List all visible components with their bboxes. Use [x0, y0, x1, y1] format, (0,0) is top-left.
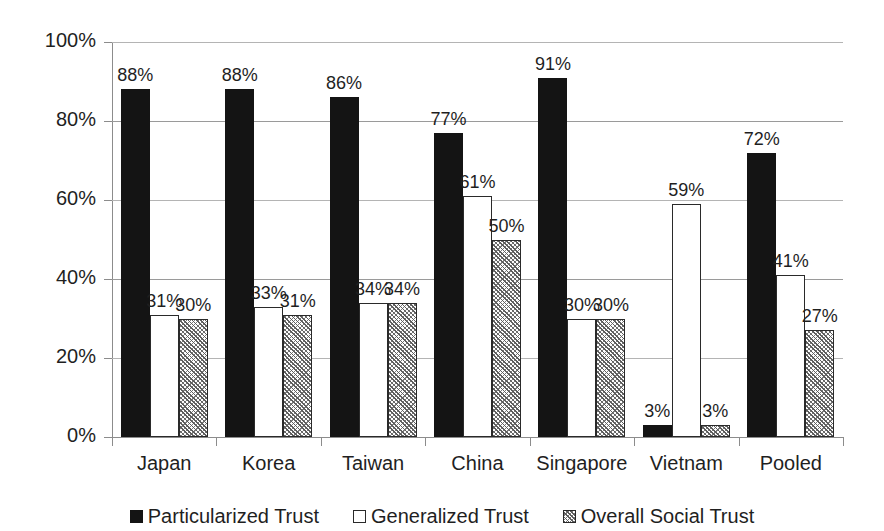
bar-taiwan-series-2: [388, 303, 417, 437]
bar-value-label: 31%: [272, 291, 324, 312]
bar-value-label: 27%: [794, 306, 846, 327]
x-axis-category-vietnam: Vietnam: [634, 452, 738, 475]
y-axis-label: 80%: [0, 108, 96, 131]
bar-korea-series-0: [225, 89, 254, 437]
y-axis-tick: [104, 121, 112, 122]
bar-singapore-series-2: [596, 319, 625, 438]
bar-singapore-series-1: [567, 319, 596, 438]
legend-item-0: Particularized Trust: [130, 505, 319, 528]
bar-value-label: 72%: [736, 129, 788, 150]
y-axis-tick: [104, 42, 112, 43]
bar-japan-series-2: [179, 319, 208, 438]
bar-pooled-series-1: [776, 275, 805, 437]
chart-legend: Particularized TrustGeneralized TrustOve…: [0, 502, 884, 531]
x-axis-tick: [321, 438, 322, 446]
bar-chart: 0%20%40%60%80%100% 88%31%30%88%33%31%86%…: [0, 0, 884, 531]
bar-china-series-2: [492, 240, 521, 438]
y-axis-tick: [104, 279, 112, 280]
bar-value-label: 88%: [109, 65, 161, 86]
gridline: [112, 121, 843, 122]
bar-vietnam-series-0: [643, 425, 672, 437]
bar-value-label: 91%: [527, 54, 579, 75]
x-axis-category-singapore: Singapore: [530, 452, 634, 475]
x-axis-category-pooled: Pooled: [739, 452, 843, 475]
bar-japan-series-1: [150, 315, 179, 437]
bar-korea-series-1: [254, 307, 283, 437]
y-axis-tick: [104, 200, 112, 201]
y-axis-label: 40%: [0, 266, 96, 289]
y-axis-tick: [104, 358, 112, 359]
x-axis-tick: [530, 438, 531, 446]
x-axis-category-china: China: [425, 452, 529, 475]
bar-value-label: 3%: [689, 401, 741, 422]
bar-value-label: 59%: [660, 180, 712, 201]
x-axis-tick: [425, 438, 426, 446]
legend-item-1: Generalized Trust: [353, 505, 529, 528]
bar-taiwan-series-1: [359, 303, 388, 437]
y-axis-tick: [104, 437, 112, 438]
bar-value-label: 61%: [452, 172, 504, 193]
y-axis-label: 60%: [0, 187, 96, 210]
bar-value-label: 50%: [481, 216, 533, 237]
bar-pooled-series-2: [805, 330, 834, 437]
legend-swatch-icon: [563, 510, 576, 523]
x-axis-tick: [739, 438, 740, 446]
plot-area: 88%31%30%88%33%31%86%34%34%77%61%50%91%3…: [112, 42, 843, 437]
legend-label: Generalized Trust: [371, 505, 529, 528]
x-axis-tick: [112, 438, 113, 446]
gridline: [112, 42, 843, 43]
bar-value-label: 34%: [376, 279, 428, 300]
bar-value-label: 41%: [765, 251, 817, 272]
bar-taiwan-series-0: [330, 97, 359, 437]
x-axis-tick: [216, 438, 217, 446]
y-axis-label: 100%: [0, 29, 96, 52]
y-axis-label: 20%: [0, 345, 96, 368]
legend-item-2: Overall Social Trust: [563, 505, 754, 528]
x-axis-tick: [634, 438, 635, 446]
legend-swatch-icon: [130, 510, 143, 523]
x-axis-category-japan: Japan: [112, 452, 216, 475]
bar-singapore-series-0: [538, 78, 567, 437]
x-axis-category-korea: Korea: [216, 452, 320, 475]
bar-value-label: 30%: [167, 295, 219, 316]
x-axis-category-taiwan: Taiwan: [321, 452, 425, 475]
bar-value-label: 88%: [214, 65, 266, 86]
bar-value-label: 77%: [423, 109, 475, 130]
x-axis-line: [112, 437, 844, 438]
bar-value-label: 30%: [585, 295, 637, 316]
legend-label: Particularized Trust: [148, 505, 319, 528]
bar-vietnam-series-2: [701, 425, 730, 437]
bar-value-label: 86%: [318, 73, 370, 94]
bar-korea-series-2: [283, 315, 312, 437]
legend-swatch-icon: [353, 510, 366, 523]
legend-label: Overall Social Trust: [581, 505, 754, 528]
bar-pooled-series-0: [747, 153, 776, 437]
bar-japan-series-0: [121, 89, 150, 437]
y-axis-label: 0%: [0, 424, 96, 447]
x-axis-tick: [843, 438, 844, 446]
